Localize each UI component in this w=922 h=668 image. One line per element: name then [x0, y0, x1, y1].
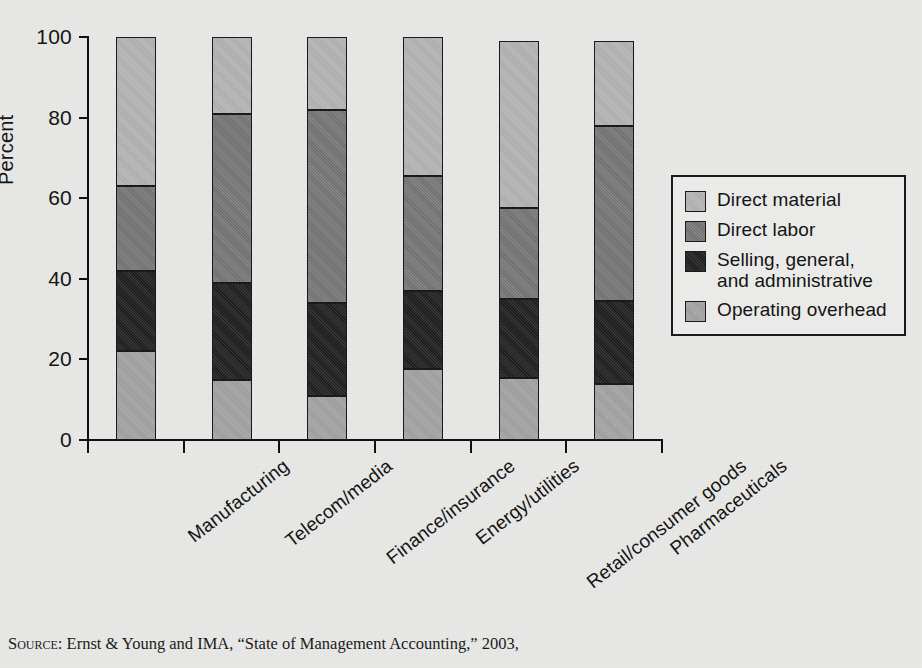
y-tick-label-100: 100	[26, 26, 72, 47]
x-tick-3	[374, 441, 376, 453]
bar-segment-direct-material	[116, 37, 156, 186]
segment-texture	[595, 385, 633, 439]
segment-texture	[213, 284, 251, 379]
segment-texture	[500, 42, 538, 207]
y-tick-40	[79, 278, 88, 280]
y-tick-100	[79, 36, 88, 38]
bar-retail-consumer-goods	[499, 37, 539, 440]
y-tick-label-40: 40	[26, 268, 72, 289]
bar-pharmaceuticals	[594, 37, 634, 440]
segment-texture	[500, 300, 538, 377]
bar-segment-operating-overhead	[307, 396, 347, 440]
bar-segment-operating-overhead	[212, 380, 252, 440]
bar-segment-selling-general-and-administrative	[594, 301, 634, 384]
legend-label: Operating overhead	[717, 299, 887, 320]
bar-segment-operating-overhead	[499, 378, 539, 440]
bar-segment-selling-general-and-administrative	[403, 291, 443, 370]
x-label-telecom-media: Telecom/media	[281, 455, 396, 552]
x-tick-2	[278, 441, 280, 453]
y-tick-label-60: 60	[26, 187, 72, 208]
segment-texture	[595, 42, 633, 125]
legend-item-direct-material: Direct material	[685, 189, 894, 212]
segment-texture	[595, 127, 633, 300]
segment-texture	[404, 38, 442, 175]
legend-label: Direct labor	[717, 219, 815, 240]
segment-texture	[213, 381, 251, 439]
segment-texture	[404, 292, 442, 369]
bar-segment-direct-labor	[594, 126, 634, 301]
bar-energy-utilities	[403, 37, 443, 440]
legend-label: Direct material	[717, 189, 841, 210]
segment-texture	[308, 38, 346, 109]
legend-swatch-icon	[685, 301, 706, 322]
swatch-texture	[686, 302, 705, 321]
segment-texture	[213, 38, 251, 113]
y-tick-20	[79, 358, 88, 360]
legend-item-operating-overhead: Operating overhead	[685, 299, 894, 322]
swatch-texture	[686, 252, 705, 271]
segment-texture	[213, 115, 251, 282]
source-text: : Ernst & Young and IMA, “State of Manag…	[58, 634, 519, 653]
segment-texture	[117, 187, 155, 270]
stacked-bar-chart-figure: Percent 100806040200 ManufacturingTeleco…	[0, 0, 922, 668]
source-note: Source: Ernst & Young and IMA, “State of…	[8, 634, 519, 654]
x-tick-1	[183, 441, 185, 453]
x-tick-4	[470, 441, 472, 453]
bar-segment-selling-general-and-administrative	[307, 303, 347, 396]
segment-texture	[308, 111, 346, 302]
segment-texture	[308, 397, 346, 439]
segment-texture	[117, 272, 155, 351]
bar-segment-operating-overhead	[403, 369, 443, 440]
bar-segment-direct-material	[594, 41, 634, 126]
y-tick-label-80: 80	[26, 107, 72, 128]
segment-texture	[500, 379, 538, 439]
segment-texture	[595, 302, 633, 383]
legend-swatch-icon	[685, 221, 706, 242]
segment-texture	[308, 304, 346, 395]
legend-swatch-icon	[685, 251, 706, 272]
x-tick-5	[565, 441, 567, 453]
bar-segment-selling-general-and-administrative	[116, 271, 156, 352]
y-tick-80	[79, 117, 88, 119]
bar-segment-direct-labor	[116, 186, 156, 271]
swatch-texture	[686, 192, 705, 211]
bar-segment-direct-labor	[307, 110, 347, 303]
legend-item-direct-labor: Direct labor	[685, 219, 894, 242]
legend-label-line2: and administrative	[717, 270, 873, 291]
legend-swatch-icon	[685, 191, 706, 212]
legend-label: Selling, general,and administrative	[717, 249, 873, 292]
bar-segment-direct-labor	[499, 208, 539, 299]
bar-segment-direct-labor	[403, 176, 443, 291]
x-tick-0	[87, 441, 89, 453]
bar-segment-direct-material	[307, 37, 347, 110]
bar-segment-selling-general-and-administrative	[212, 283, 252, 380]
segment-texture	[117, 38, 155, 185]
segment-texture	[117, 352, 155, 439]
plot-area	[88, 37, 662, 440]
bar-segment-direct-labor	[212, 114, 252, 283]
bar-segment-direct-material	[499, 41, 539, 208]
x-label-retail-consumer-goods: Retail/consumer goods	[582, 455, 750, 593]
y-tick-label-20: 20	[26, 348, 72, 369]
chart-legend: Direct materialDirect laborSelling, gene…	[671, 175, 906, 336]
segment-texture	[500, 209, 538, 298]
y-axis-title: Percent	[0, 115, 18, 185]
bar-segment-direct-material	[212, 37, 252, 114]
x-label-manufacturing: Manufacturing	[184, 455, 293, 547]
bar-manufacturing	[116, 37, 156, 440]
source-label: Source	[8, 634, 58, 653]
bar-segment-operating-overhead	[116, 351, 156, 440]
bar-telecom-media	[212, 37, 252, 440]
segment-texture	[404, 177, 442, 290]
y-tick-label-0: 0	[26, 429, 72, 450]
bar-segment-operating-overhead	[594, 384, 634, 440]
bar-segment-selling-general-and-administrative	[499, 299, 539, 378]
swatch-texture	[686, 222, 705, 241]
y-tick-60	[79, 197, 88, 199]
legend-item-selling-general-: Selling, general,and administrative	[685, 249, 894, 292]
x-tick-6	[661, 441, 663, 453]
segment-texture	[404, 370, 442, 439]
bar-segment-direct-material	[403, 37, 443, 176]
bar-finance-insurance	[307, 37, 347, 440]
